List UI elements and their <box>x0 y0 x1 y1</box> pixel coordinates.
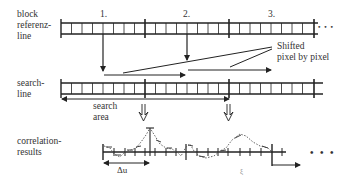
hollow-down-arrow-1 <box>139 104 148 121</box>
mapping-arrows <box>103 34 187 71</box>
diagram-canvas <box>0 0 357 183</box>
shift-arrows <box>104 47 272 75</box>
curve-sample-markers <box>106 135 268 157</box>
search-line-strip <box>61 79 323 98</box>
block-reference-strip <box>61 19 318 38</box>
correlation-curve <box>104 128 272 158</box>
correlation-axis <box>103 128 286 166</box>
hollow-down-arrow-2 <box>224 104 233 121</box>
